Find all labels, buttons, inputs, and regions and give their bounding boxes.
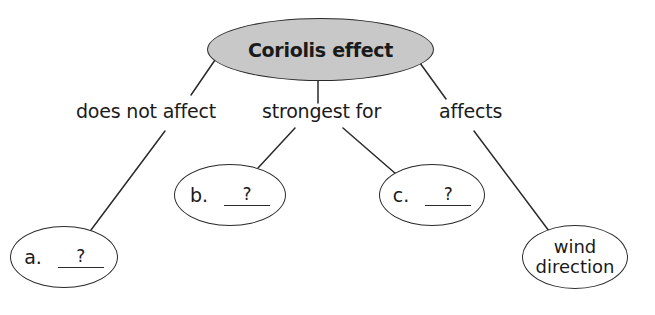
link-label-strongest-for: strongest for <box>262 100 381 122</box>
connector-strongest-for-to-b <box>258 128 295 168</box>
node-wind-direction-line2: direction <box>536 257 615 277</box>
answer-blank-c[interactable]: ? <box>425 184 471 206</box>
answer-node-b-letter: b. <box>190 184 208 206</box>
link-label-does-not-affect: does not affect <box>76 100 216 122</box>
connector-root-to-does-not-affect <box>191 60 215 95</box>
connector-root-to-affects <box>420 63 446 99</box>
answer-blank-a[interactable]: ? <box>58 246 104 268</box>
connector-does-not-affect-to-a <box>91 131 165 230</box>
connector-affects-to-wind-direction <box>474 131 549 231</box>
answer-blank-b[interactable]: ? <box>224 184 270 206</box>
answer-node-b: b. ? <box>174 164 286 226</box>
node-wind-direction: wind direction <box>522 225 628 289</box>
node-wind-direction-line1: wind <box>554 237 597 257</box>
connector-strongest-for-to-c <box>343 128 396 174</box>
root-node-coriolis-effect: Coriolis effect <box>207 18 434 81</box>
root-node-label: Coriolis effect <box>248 39 393 61</box>
link-label-affects: affects <box>439 100 502 122</box>
answer-node-c: c. ? <box>379 164 485 226</box>
concept-map: Coriolis effect does not affect stronges… <box>0 0 655 315</box>
answer-node-a: a. ? <box>10 226 118 288</box>
answer-node-c-letter: c. <box>393 184 410 206</box>
answer-node-a-letter: a. <box>24 246 42 268</box>
